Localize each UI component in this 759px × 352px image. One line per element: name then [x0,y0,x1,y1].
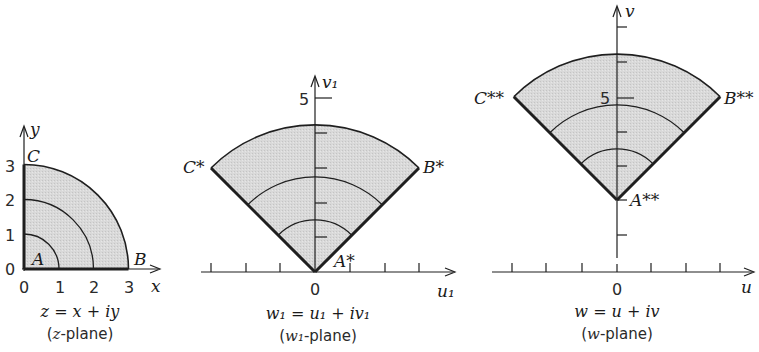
conformal-mapping-diagram: y x A B C 0 1 2 3 0 1 2 3 z = x + iy (z-… [0,0,759,352]
w1-plane-panel: v₁ 5 C* B* A* 0 u₁ w₁ = u₁ + iv₁ (w₁-pla… [183,72,455,345]
z-x-tick-3: 3 [124,278,134,297]
z-y-tick-0: 0 [5,260,15,279]
w-point-A-label: A** [628,190,660,210]
z-plane-panel: y x A B C 0 1 2 3 0 1 2 3 z = x + iy (z-… [5,119,161,343]
w1-origin-label: 0 [310,280,320,299]
z-point-A-label: A [30,249,44,269]
w-point-B-label: B** [723,88,754,108]
w1-v-tick-5-label: 5 [299,90,309,109]
w-plane-panel: v 5 C** B** A** 0 u w = u + iv (w-plane) [474,1,754,343]
w1-v-axis-label: v₁ [322,72,338,92]
z-x-tick-2: 2 [89,278,99,297]
w-point-C-label: C** [474,88,505,108]
w1-u-axis-label: u₁ [437,281,455,301]
z-plane-subcaption: (z-plane) [47,325,114,343]
w-u-axis-label: u [741,277,752,297]
w1-plane-caption: w₁ = u₁ + iv₁ [266,304,371,323]
z-y-tick-3: 3 [5,157,15,176]
w-v-axis-label: v [625,1,635,21]
z-y-tick-2: 2 [5,191,15,210]
w-u-ticks [512,263,720,272]
z-point-B-label: B [133,249,147,269]
z-point-C-label: C [27,146,40,166]
w-plane-caption: w = u + iv [574,302,659,321]
w1-point-B-label: B* [422,157,444,177]
z-y-tick-1: 1 [5,226,15,245]
z-y-axis-label: y [29,119,40,139]
w-origin-label: 0 [612,280,622,299]
w-v-tick-5-label: 5 [600,89,610,108]
z-x-tick-0: 0 [19,278,29,297]
w-plane-subcaption: (w-plane) [581,325,653,343]
z-x-axis-label: x [151,276,161,296]
w1-point-A-label: A* [332,251,355,271]
z-plane-caption: z = x + iy [40,302,121,321]
z-x-tick-1: 1 [55,278,65,297]
w1-point-C-label: C* [183,157,205,177]
w1-plane-subcaption: (w₁-plane) [279,327,357,345]
